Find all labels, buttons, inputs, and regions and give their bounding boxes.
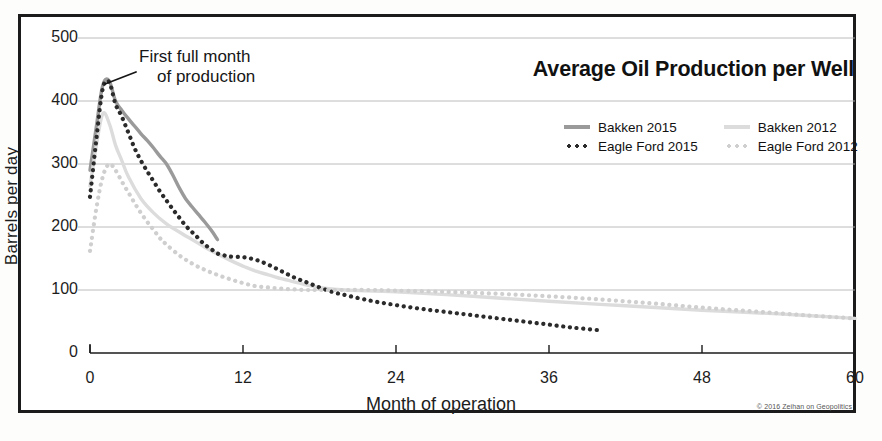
x-tick-label: 60 — [832, 369, 878, 387]
chart-legend: Bakken 2015Bakken 2012Eagle Ford 2015Eag… — [560, 118, 862, 156]
y-tick-label: 300 — [32, 154, 78, 172]
legend-swatch-dotted-icon — [564, 141, 590, 151]
legend-row: Eagle Ford 2015Eagle Ford 2012 — [560, 137, 862, 156]
legend-label: Bakken 2015 — [594, 118, 702, 137]
x-tick-label: 12 — [220, 369, 266, 387]
legend-swatch-dotted-icon — [724, 141, 750, 151]
copyright-notice: © 2016 Zeihan on Geopolitics — [757, 403, 852, 410]
x-tick-label: 48 — [679, 369, 725, 387]
legend-label: Eagle Ford 2015 — [594, 137, 702, 156]
chart-title: Average Oil Production per Well — [533, 57, 854, 82]
x-axis-label: Month of operation — [0, 394, 882, 415]
y-tick-label: 500 — [32, 28, 78, 46]
legend-swatch-solid-icon — [564, 122, 590, 132]
y-axis-label: Barrels per day — [2, 76, 22, 336]
legend-swatch — [560, 118, 594, 137]
legend-swatch-solid-icon — [724, 122, 750, 132]
x-tick-label: 36 — [526, 369, 572, 387]
y-tick-label: 400 — [32, 91, 78, 109]
legend-table: Bakken 2015Bakken 2012Eagle Ford 2015Eag… — [560, 118, 862, 156]
series-line-eagle-ford-2015 — [90, 80, 600, 330]
y-tick-label: 0 — [32, 343, 78, 361]
legend-row: Bakken 2015Bakken 2012 — [560, 118, 862, 137]
y-tick-label: 100 — [32, 280, 78, 298]
annotation-line-1: First full month — [139, 47, 250, 66]
legend-label: Bakken 2012 — [754, 118, 862, 137]
legend-label: Eagle Ford 2012 — [754, 137, 862, 156]
x-tick-label: 0 — [67, 369, 113, 387]
series-line-bakken-2015 — [90, 79, 218, 240]
x-tick-label: 24 — [373, 369, 419, 387]
legend-swatch — [702, 137, 754, 156]
y-tick-label: 200 — [32, 217, 78, 235]
annotation-leader-line — [105, 72, 136, 84]
legend-swatch — [560, 137, 594, 156]
annotation-first-full-month: First full month of production — [139, 47, 255, 87]
legend-swatch — [702, 118, 754, 137]
annotation-line-2: of production — [139, 67, 255, 87]
